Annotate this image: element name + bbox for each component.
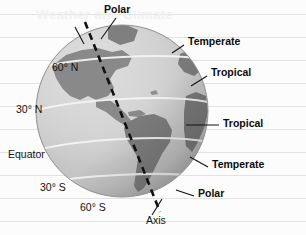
latitude-label-30n: 30° N <box>16 104 42 115</box>
zone-label-temperate-north: Temperate <box>188 36 240 47</box>
leader-temperate-south <box>190 157 208 167</box>
latitude-label-30s: 30° S <box>40 182 66 193</box>
latitude-line-60s <box>42 201 206 210</box>
climate-zones-figure: Weather and Climate <box>0 0 306 235</box>
leader-polar-south <box>176 190 194 196</box>
globe-terminator-shadow <box>36 25 208 197</box>
latitude-label-60s: 60° S <box>80 202 106 213</box>
zone-label-polar-north: Polar <box>104 4 130 15</box>
zone-label-polar-south: Polar <box>198 188 224 199</box>
latitude-label-equator: Equator <box>8 149 45 160</box>
latitude-label-60n: 60° N <box>52 62 78 73</box>
zone-label-tropical-south: Tropical <box>223 118 263 129</box>
zone-label-tropical-north: Tropical <box>211 67 251 78</box>
axis-label: Axis <box>146 215 166 226</box>
zone-label-temperate-south: Temperate <box>212 159 264 170</box>
